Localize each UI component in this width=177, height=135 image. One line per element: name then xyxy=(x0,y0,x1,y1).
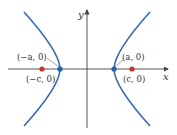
left-vertex-point xyxy=(57,66,62,71)
left-focus-label: (−c, 0) xyxy=(26,74,55,84)
left-focus-point xyxy=(39,66,44,71)
y-axis-label: y xyxy=(77,9,84,20)
right-focus-point xyxy=(129,66,134,71)
x-axis-label: x xyxy=(163,71,169,82)
right-vertex-label: (a, 0) xyxy=(122,52,145,62)
right-vertex-point xyxy=(111,66,116,71)
left-vertex-label: (−a, 0) xyxy=(17,52,47,62)
right-focus-label: (c, 0) xyxy=(123,74,145,84)
hyperbola-diagram: x y (−a, 0) (−c, 0) (a, 0) (c, 0) xyxy=(0,0,177,135)
